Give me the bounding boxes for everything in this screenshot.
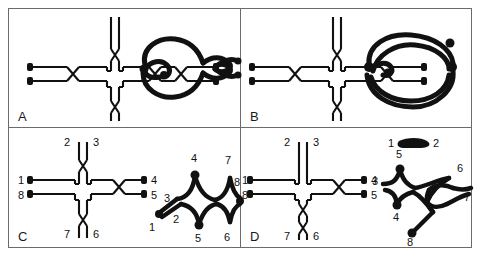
label-d-left-3: 3 [313, 136, 319, 148]
label-c-left-7: 7 [64, 228, 70, 240]
product-structure-d [383, 165, 471, 238]
label-c-right-3: 3 [164, 192, 170, 204]
panel-c: C [9, 128, 240, 247]
label-c-left-1: 1 [18, 174, 24, 186]
panel-c-graphics: 2 3 1 8 4 5 7 6 [9, 128, 240, 247]
panel-b-graphics [241, 9, 471, 127]
label-d-right-6: 6 [457, 162, 463, 174]
label-d-right-3: 3 [372, 175, 378, 187]
label-d-left-6: 6 [313, 230, 319, 242]
cross-labels-d: 2 3 1 8 4 5 7 6 [242, 136, 377, 242]
label-c-left-2: 2 [64, 136, 70, 148]
product-labels-c: 1 2 3 4 5 6 7 8 [149, 152, 240, 244]
label-c-left-5: 5 [151, 189, 157, 201]
label-d-right-5: 5 [396, 148, 402, 160]
label-c-right-5: 5 [195, 232, 201, 244]
label-c-right-2: 2 [173, 213, 179, 225]
label-d-right-7: 7 [464, 191, 470, 203]
product-structure-b [364, 35, 457, 107]
panel-a-graphics [9, 9, 240, 127]
panel-d: D [241, 128, 471, 247]
free-hairpin-d [398, 138, 430, 148]
cross-junction-c [27, 142, 147, 238]
label-d-right-8: 8 [407, 236, 413, 248]
label-d-left-2: 2 [284, 136, 290, 148]
panel-b: B [241, 9, 471, 127]
label-c-right-4: 4 [191, 152, 197, 164]
label-c-left-8: 8 [18, 189, 24, 201]
label-c-right-8: 8 [234, 176, 240, 188]
label-c-right-1: 1 [149, 221, 155, 233]
label-c-left-6: 6 [93, 228, 99, 240]
figure-root: A [0, 0, 484, 258]
panel-a: A [9, 9, 240, 127]
label-c-right-7: 7 [225, 154, 231, 166]
label-c-left-3: 3 [93, 136, 99, 148]
label-c-left-4: 4 [151, 174, 157, 186]
cross-junction-a [27, 17, 219, 121]
label-d-right-2: 2 [433, 137, 439, 149]
label-d-left-1: 1 [242, 174, 248, 186]
cross-junction-d [247, 142, 367, 240]
label-d-right-1: 1 [388, 137, 394, 149]
label-c-right-6: 6 [224, 231, 230, 243]
label-d-left-5: 5 [371, 189, 377, 201]
label-d-left-8: 8 [242, 189, 248, 201]
label-d-right-4: 4 [393, 211, 399, 223]
panel-d-graphics: 2 3 1 8 4 5 7 6 1 2 [241, 128, 471, 247]
label-d-left-7: 7 [284, 230, 290, 242]
